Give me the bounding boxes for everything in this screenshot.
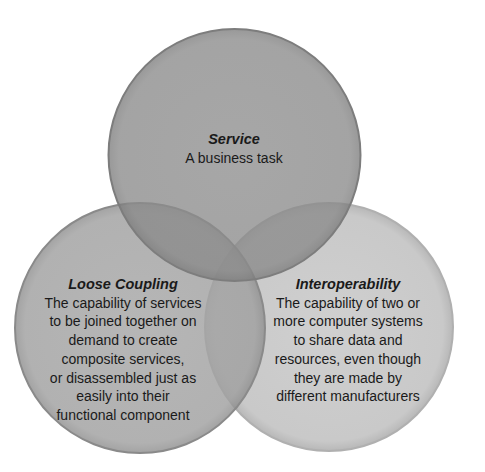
interoperability-line: they are made by bbox=[248, 369, 448, 388]
loose-coupling-line: functional component bbox=[23, 406, 223, 425]
loose-coupling-line: composite services, bbox=[23, 350, 223, 369]
service-description: A business task bbox=[134, 149, 334, 168]
interoperability-line: more computer systems bbox=[248, 312, 448, 331]
loose-coupling-line: demand to create bbox=[23, 331, 223, 350]
loose-coupling-label: Loose Coupling The capability of service… bbox=[23, 275, 223, 425]
interoperability-label: Interoperability The capability of two o… bbox=[248, 275, 448, 406]
interoperability-line: to share data and bbox=[248, 331, 448, 350]
loose-coupling-title: Loose Coupling bbox=[23, 275, 223, 294]
interoperability-line: The capability of two or bbox=[248, 294, 448, 313]
loose-coupling-line: The capability of services bbox=[23, 294, 223, 313]
loose-coupling-line: or disassembled just as bbox=[23, 369, 223, 388]
interoperability-title: Interoperability bbox=[248, 275, 448, 294]
loose-coupling-line: to be joined together on bbox=[23, 312, 223, 331]
interoperability-line: resources, even though bbox=[248, 350, 448, 369]
service-label: Service A business task bbox=[134, 130, 334, 167]
loose-coupling-line: easily into their bbox=[23, 387, 223, 406]
service-title: Service bbox=[134, 130, 334, 149]
interoperability-line: different manufacturers bbox=[248, 387, 448, 406]
